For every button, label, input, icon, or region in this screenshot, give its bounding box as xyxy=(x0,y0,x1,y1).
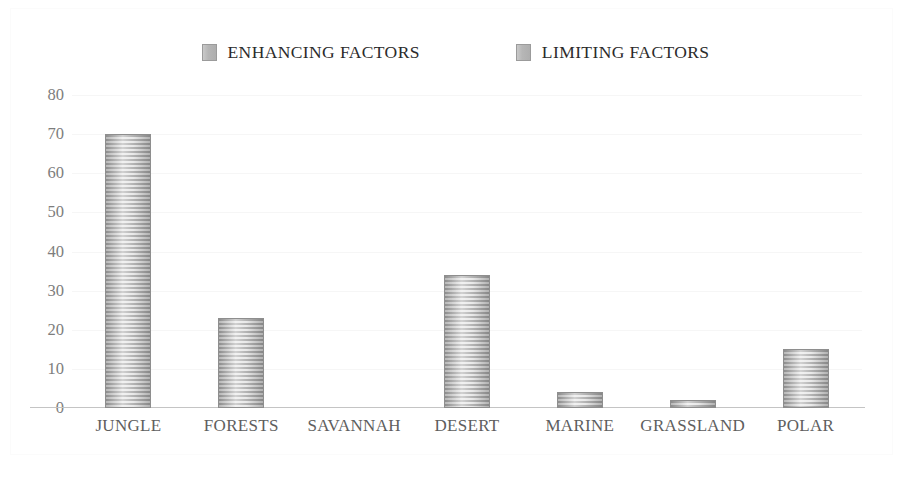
bar-slot xyxy=(185,95,298,408)
bar[interactable] xyxy=(218,318,264,408)
bar-chart: ENHANCING FACTORS LIMITING FACTORS 80706… xyxy=(0,0,911,481)
x-axis-label-slot: FORESTS xyxy=(185,416,298,446)
bar-slot xyxy=(749,95,862,408)
x-axis-tick-label: MARINE xyxy=(545,416,614,435)
bar[interactable] xyxy=(783,349,829,408)
y-axis-tick-label: 40 xyxy=(48,242,65,262)
y-axis-tick-label: 70 xyxy=(48,124,65,144)
x-axis-label-slot: MARINE xyxy=(523,416,636,446)
x-axis-tick-label: GRASSLAND xyxy=(640,416,745,435)
y-axis-tick-label: 20 xyxy=(48,320,65,340)
plot-area: 80706050403020100 JUNGLEFORESTSSAVANNAHD… xyxy=(0,0,911,481)
bar-slot xyxy=(72,95,185,408)
bar[interactable] xyxy=(557,392,603,408)
bar[interactable] xyxy=(444,275,490,408)
y-axis-tick-label: 0 xyxy=(56,398,64,418)
bar[interactable] xyxy=(670,400,716,408)
bar-group xyxy=(72,95,862,408)
x-axis-tick-label: JUNGLE xyxy=(95,416,161,435)
bar-slot xyxy=(523,95,636,408)
bar-slot xyxy=(636,95,749,408)
x-axis-tick-label: DESERT xyxy=(435,416,500,435)
y-axis-tick-label: 10 xyxy=(48,359,65,379)
x-axis-label-slot: GRASSLAND xyxy=(636,416,749,446)
bar[interactable] xyxy=(105,134,151,408)
x-axis: JUNGLEFORESTSSAVANNAHDESERTMARINEGRASSLA… xyxy=(72,416,862,446)
x-axis-tick-label: POLAR xyxy=(777,416,834,435)
x-axis-label-slot: SAVANNAH xyxy=(298,416,411,446)
y-axis-tick-label: 30 xyxy=(48,281,65,301)
x-axis-label-slot: JUNGLE xyxy=(72,416,185,446)
y-axis-tick-label: 80 xyxy=(48,85,65,105)
y-axis: 80706050403020100 xyxy=(28,95,64,408)
x-axis-label-slot: DESERT xyxy=(411,416,524,446)
y-axis-tick-label: 60 xyxy=(48,163,65,183)
bar-slot xyxy=(298,95,411,408)
y-axis-tick-label: 50 xyxy=(48,202,65,222)
x-axis-tick-label: SAVANNAH xyxy=(307,416,400,435)
x-axis-label-slot: POLAR xyxy=(749,416,862,446)
bar-slot xyxy=(411,95,524,408)
x-axis-tick-label: FORESTS xyxy=(204,416,279,435)
